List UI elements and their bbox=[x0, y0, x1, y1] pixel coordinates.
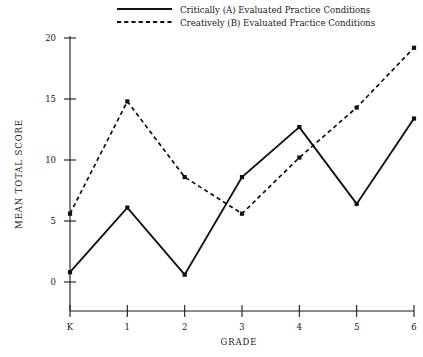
data-point-marker bbox=[297, 125, 301, 129]
chart-container: Critically (A) Evaluated Practice Condit… bbox=[0, 0, 423, 357]
legend-label-series-1: Critically (A) Evaluated Practice Condit… bbox=[180, 5, 370, 15]
y-tick-label: 15 bbox=[45, 94, 56, 104]
x-tick-label: 4 bbox=[297, 322, 302, 332]
y-tick-label: 0 bbox=[51, 277, 56, 287]
data-point-marker bbox=[125, 205, 129, 209]
x-tick-label: 2 bbox=[182, 322, 187, 332]
legend-label-series-2: Creatively (B) Evaluated Practice Condit… bbox=[180, 18, 375, 28]
line-chart: Critically (A) Evaluated Practice Condit… bbox=[0, 0, 423, 357]
data-point-marker bbox=[68, 212, 72, 216]
chart-legend: Critically (A) Evaluated Practice Condit… bbox=[117, 5, 375, 28]
x-tick-label: 1 bbox=[125, 322, 130, 332]
x-axis-title: GRADE bbox=[221, 337, 258, 347]
y-tick-label: 20 bbox=[45, 33, 56, 43]
data-point-marker bbox=[183, 273, 187, 277]
data-point-marker bbox=[125, 99, 129, 103]
data-point-marker bbox=[355, 202, 359, 206]
y-axis-title: MEAN TOTAL SCORE bbox=[14, 119, 24, 229]
data-point-marker bbox=[355, 105, 359, 109]
chart-series-layer bbox=[68, 46, 416, 277]
x-axis-ticks: K123456 bbox=[67, 305, 417, 332]
data-point-marker bbox=[297, 155, 301, 159]
x-tick-label: 5 bbox=[354, 322, 359, 332]
series-line-1 bbox=[70, 119, 414, 275]
x-tick-label: K bbox=[67, 322, 74, 332]
data-point-marker bbox=[240, 175, 244, 179]
x-tick-label: 3 bbox=[239, 322, 244, 332]
series-line-2 bbox=[70, 48, 414, 214]
y-tick-label: 5 bbox=[51, 216, 56, 226]
data-point-marker bbox=[183, 175, 187, 179]
y-tick-label: 10 bbox=[45, 155, 56, 165]
data-point-marker bbox=[412, 46, 416, 50]
y-axis-ticks: 05101520 bbox=[45, 33, 76, 287]
data-point-marker bbox=[412, 116, 416, 120]
data-point-marker bbox=[240, 212, 244, 216]
data-point-marker bbox=[68, 270, 72, 274]
x-tick-label: 6 bbox=[411, 322, 416, 332]
